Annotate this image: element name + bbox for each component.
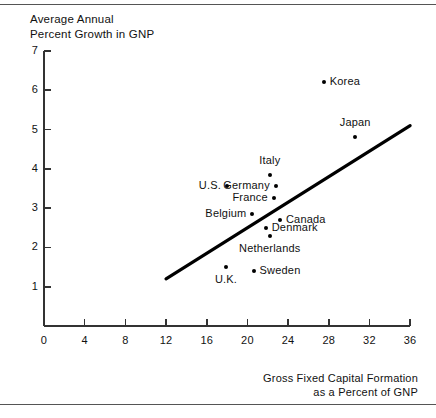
x-axis-tick-label: 12 xyxy=(154,334,178,346)
trend-line-segment xyxy=(166,126,410,279)
data-point-label: Italy xyxy=(210,154,330,166)
data-point-label: U.S. xyxy=(199,179,221,191)
y-axis-tick-label: 4 xyxy=(22,162,38,174)
x-axis-tick-label: 36 xyxy=(398,334,422,346)
trend-line xyxy=(166,126,410,279)
data-point-label: Germany xyxy=(223,179,270,191)
x-axis-tick-label: 20 xyxy=(235,334,259,346)
data-point-marker xyxy=(252,269,256,273)
data-point-label: France xyxy=(232,191,267,203)
x-axis-tick-label: 24 xyxy=(276,334,300,346)
y-axis-tick-label: 1 xyxy=(22,280,38,292)
y-axis-tick-label: 7 xyxy=(22,44,38,56)
data-point-label: Korea xyxy=(330,75,360,87)
x-axis-tick-label: 16 xyxy=(195,334,219,346)
data-point-label: Belgium xyxy=(205,207,246,219)
data-point-label: Netherlands xyxy=(210,242,330,254)
chart-figure: Average Annual Percent Growth in GNP 123… xyxy=(0,0,436,418)
data-point-marker xyxy=(268,173,272,177)
x-axis-tick-label: 0 xyxy=(32,334,56,346)
x-axis-tick-label: 4 xyxy=(73,334,97,346)
data-point-marker xyxy=(264,226,268,230)
y-axis-tick-label: 3 xyxy=(22,201,38,213)
x-axis-tick-label: 28 xyxy=(317,334,341,346)
data-point-label: Denmark xyxy=(272,221,318,233)
data-point-label: Japan xyxy=(295,116,415,128)
x-axis-label: Gross Fixed Capital Formation as a Perce… xyxy=(263,371,418,399)
y-axis-tick-label: 6 xyxy=(22,83,38,95)
data-point-marker xyxy=(268,234,272,238)
data-point-label: Sweden xyxy=(260,264,301,276)
x-axis-tick-label: 8 xyxy=(113,334,137,346)
x-axis-tick-label: 32 xyxy=(357,334,381,346)
y-axis-tick-label: 2 xyxy=(22,240,38,252)
y-axis-tick-label: 5 xyxy=(22,123,38,135)
